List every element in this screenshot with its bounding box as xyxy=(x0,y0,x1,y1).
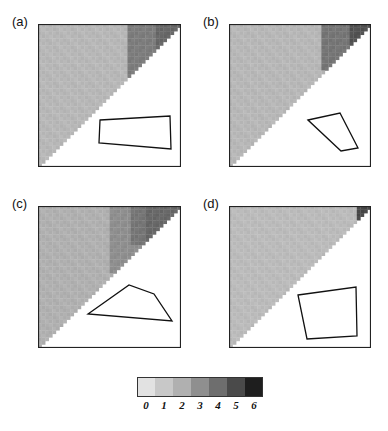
panel-label: (c) xyxy=(12,196,27,211)
shape-outline xyxy=(298,287,357,339)
heatmap-panel xyxy=(38,206,181,348)
colorbar-tick: 2 xyxy=(179,399,185,411)
colorbar-tick: 1 xyxy=(161,399,167,411)
colorbar-tick: 6 xyxy=(251,399,257,411)
colorbar xyxy=(137,377,263,397)
colorbar-tick-labels: 0123456 xyxy=(137,399,263,413)
heatmap-panel xyxy=(229,206,371,348)
panel-label: (b) xyxy=(203,14,219,29)
panel-label: (d) xyxy=(203,196,219,211)
colorbar-tick: 3 xyxy=(197,399,203,411)
heatmap-panel xyxy=(229,24,371,167)
shape-outline xyxy=(88,285,172,321)
shape-outline xyxy=(99,116,171,149)
panel-label: (a) xyxy=(12,14,28,29)
colorbar-tick: 4 xyxy=(215,399,221,411)
colorbar-tick: 5 xyxy=(233,399,239,411)
heatmap-panel xyxy=(38,24,181,167)
shape-outline xyxy=(308,113,358,151)
colorbar-tick: 0 xyxy=(143,399,149,411)
